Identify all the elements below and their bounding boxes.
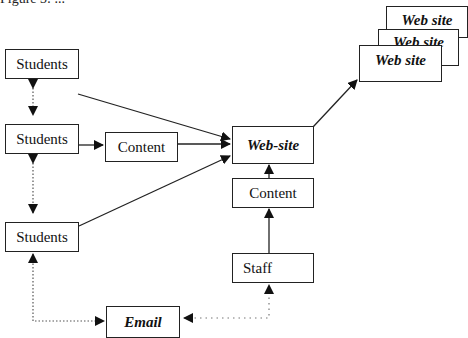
students-node-bottom: Students — [5, 222, 79, 252]
dotted-link-staff-email — [184, 285, 269, 318]
content-node-center: Content — [232, 178, 314, 208]
link-students-bottom-website — [79, 156, 230, 226]
website-node-center: Web-site — [232, 126, 314, 164]
staff-node: Staff — [232, 253, 314, 283]
web-site-stack-front: Web site — [359, 45, 442, 82]
email-node: Email — [106, 306, 180, 338]
students-node-mid: Students — [5, 124, 79, 154]
dotted-link-students-email — [33, 254, 104, 321]
students-node-top: Students — [5, 49, 79, 79]
link-website-stack — [313, 80, 357, 127]
content-node-left: Content — [105, 132, 178, 162]
